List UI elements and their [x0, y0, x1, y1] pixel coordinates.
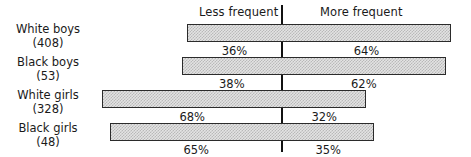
axis-header-less-frequent: Less frequent [199, 5, 278, 19]
value-label-white-girls-less: 68% [179, 110, 205, 124]
bar-black-boys [182, 57, 446, 75]
category-label-black-girls: Black girls (48) [0, 121, 96, 149]
category-label-white-boys: White boys (408) [0, 22, 96, 50]
category-count: (53) [0, 69, 96, 83]
value-label-black-boys-less: 38% [219, 77, 245, 91]
value-label-black-girls-less: 65% [183, 143, 209, 157]
category-name: Black boys [17, 55, 79, 69]
category-label-black-boys: Black boys (53) [0, 55, 96, 83]
category-count: (408) [0, 36, 96, 50]
diverging-bar-chart: Less frequent More frequent White boys (… [0, 0, 471, 157]
axis-header-more-frequent: More frequent [320, 5, 403, 19]
value-label-black-boys-more: 62% [351, 77, 377, 91]
value-label-white-boys-less: 36% [222, 44, 248, 58]
category-name: White girls [17, 88, 79, 102]
category-count: (48) [0, 135, 96, 149]
category-label-white-girls: White girls (328) [0, 88, 96, 116]
bar-white-boys [187, 24, 451, 42]
bar-white-girls [102, 90, 366, 108]
value-label-black-girls-more: 35% [315, 143, 341, 157]
bar-black-girls [110, 123, 374, 141]
value-label-white-girls-more: 32% [311, 110, 337, 124]
category-name: White boys [16, 22, 80, 36]
category-name: Black girls [18, 121, 77, 135]
value-label-white-boys-more: 64% [354, 44, 380, 58]
category-count: (328) [0, 102, 96, 116]
